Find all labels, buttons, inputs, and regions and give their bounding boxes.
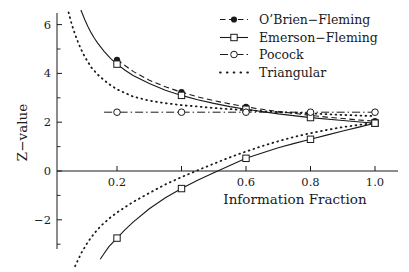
y-tick-label: 6 (44, 18, 51, 32)
y-axis: 6420−2 (34, 13, 62, 249)
open-circle-legend-icon (219, 48, 249, 61)
legend: O’Brien−FlemingEmerson−FlemingPocockTria… (219, 11, 378, 81)
x-tick-label: 0.6 (237, 175, 255, 189)
x-axis: 0.20.60.81.0 (57, 166, 398, 189)
series-markers (114, 57, 379, 242)
x-axis-title: Information Fraction (190, 191, 400, 207)
filled-circle-legend-icon (219, 13, 249, 26)
x-tick-label: 1.0 (366, 175, 384, 189)
open-circle-marker (372, 109, 379, 116)
open-circle-marker (178, 109, 185, 116)
open-square-marker (178, 92, 184, 98)
legend-item-triangular: Triangular (219, 64, 378, 82)
legend-label: O’Brien−Fleming (259, 11, 370, 29)
open-square-marker (243, 155, 249, 161)
open-circle-marker (307, 109, 314, 116)
chart-figure: 0.20.60.81.06420−2 O’Brien−FlemingEmerso… (0, 0, 409, 272)
open-square-marker (114, 61, 120, 67)
y-tick-label: −2 (34, 213, 51, 227)
x-tick-label: 0.8 (301, 175, 319, 189)
open-square-marker (307, 136, 313, 142)
open-circle-marker (114, 109, 121, 116)
open-square-marker (372, 120, 378, 126)
legend-label: Emerson−Fleming (259, 29, 378, 47)
legend-item-emerson-fleming: Emerson−Fleming (219, 29, 378, 47)
legend-label: Pocock (259, 46, 304, 64)
dotted-line-legend-icon (219, 66, 249, 79)
markers-emerson-fleming (114, 61, 378, 241)
legend-item-o-brien-fleming: O’Brien−Fleming (219, 11, 378, 29)
open-circle-marker (243, 109, 250, 116)
open-square-legend-icon (219, 31, 249, 44)
y-tick-label: 0 (44, 164, 51, 178)
open-square-marker (178, 185, 184, 191)
y-axis-title: Z−value (14, 73, 31, 193)
legend-label: Triangular (259, 64, 326, 82)
open-square-marker (114, 235, 120, 241)
x-tick-label: 0.2 (108, 175, 126, 189)
y-tick-label: 4 (44, 66, 51, 80)
legend-item-pocock: Pocock (219, 46, 378, 64)
y-tick-label: 2 (44, 115, 51, 129)
